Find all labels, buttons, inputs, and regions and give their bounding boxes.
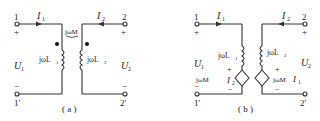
current-i2-a: I (96, 10, 101, 21)
svg-text:2: 2 (287, 16, 290, 22)
current-arrow-i2-b (278, 22, 284, 27)
caption-a: ( a ) (62, 104, 77, 114)
svg-text:1: 1 (201, 64, 204, 70)
minus-1-a: − (14, 81, 19, 91)
svg-text:1: 1 (21, 66, 24, 72)
terminal-2p-b: 2′ (300, 98, 307, 108)
svg-text:1: 1 (56, 60, 59, 65)
plus-2-b: + (302, 27, 307, 37)
inductor-l2-label-b: jωL (266, 48, 279, 57)
terminal-1-b: 1 (194, 12, 199, 22)
source1-minus-b: − (228, 85, 233, 94)
terminal-2-b: 2 (302, 12, 307, 22)
inductor-l1-label-a: jωL (38, 55, 51, 64)
svg-text:2: 2 (284, 53, 287, 58)
current-arrow-i2-a (98, 22, 104, 27)
source2-label-b: jωM (272, 76, 287, 84)
svg-text:2: 2 (308, 63, 311, 69)
current-i1-b: I (216, 10, 221, 21)
mutual-label-a: jωM (64, 28, 79, 36)
svg-text:2: 2 (128, 66, 131, 72)
source2-ctrl-b: I (292, 74, 297, 84)
current-i2-b: I (281, 10, 286, 21)
source2-minus-b: − (275, 85, 280, 94)
plus-1-b: + (194, 27, 199, 37)
terminal-1-a: 1 (14, 12, 19, 22)
terminal-1p-b: 1′ (194, 98, 201, 108)
source1-label-b: jωM (195, 76, 210, 84)
current-i1-a: I (36, 10, 41, 21)
plus-1-a: + (14, 27, 19, 37)
inductor-l1-label-b: jωL (217, 51, 230, 60)
terminal-2p-a: 2′ (120, 98, 127, 108)
circuit-b (195, 22, 307, 96)
svg-text:1: 1 (298, 79, 301, 85)
source1-ctrl-b: I (226, 75, 231, 85)
minus-2-a: − (122, 81, 127, 91)
polarity-dot-2-a (85, 42, 89, 46)
svg-text:2: 2 (102, 16, 105, 22)
polarity-dot-1-a (55, 42, 59, 46)
plus-2-a: + (121, 27, 126, 37)
terminal-1p-a: 1′ (14, 98, 21, 108)
svg-text:1: 1 (42, 16, 45, 22)
inductor-l2-label-a: jωL (86, 55, 99, 64)
current-arrow-i1-b (216, 22, 222, 27)
caption-b: ( b ) (238, 104, 253, 114)
source1-plus-b: + (227, 65, 232, 74)
svg-text:1: 1 (222, 16, 225, 22)
svg-text:1: 1 (235, 56, 238, 61)
current-arrow-i1-a (36, 22, 42, 27)
terminal-2-a: 2 (122, 12, 127, 22)
source2-plus-b: + (275, 65, 280, 74)
svg-text:2: 2 (104, 60, 107, 65)
